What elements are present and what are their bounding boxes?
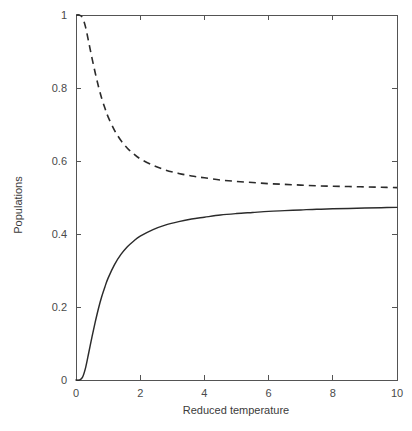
y-tick-label: 0.6 xyxy=(52,155,67,167)
x-tick-label: 4 xyxy=(201,387,207,399)
x-tick-label: 0 xyxy=(73,387,79,399)
populations-chart: 0246810 00.20.40.60.81 Reduced temperatu… xyxy=(0,0,412,431)
y-tick-label: 0.4 xyxy=(52,228,67,240)
x-tick-label: 6 xyxy=(266,387,272,399)
y-axis-title: Populations xyxy=(12,176,24,234)
chart-background xyxy=(0,0,412,431)
y-tick-label: 0.2 xyxy=(52,301,67,313)
x-tick-label: 10 xyxy=(391,387,403,399)
y-tick-label: 1 xyxy=(61,9,67,21)
x-tick-label: 2 xyxy=(137,387,143,399)
y-tick-label: 0.8 xyxy=(52,82,67,94)
x-axis-title: Reduced temperature xyxy=(183,404,289,416)
y-tick-label: 0 xyxy=(61,374,67,386)
x-tick-label: 8 xyxy=(330,387,336,399)
